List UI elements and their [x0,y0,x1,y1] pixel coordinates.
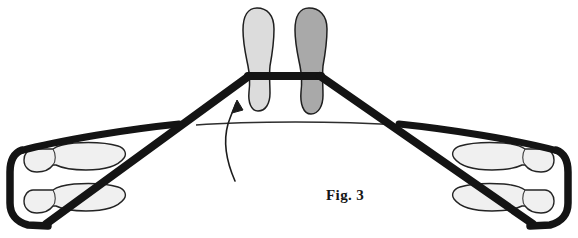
figure-diagram: Fig. 3 [0,0,578,238]
figure-canvas [0,0,578,238]
figure-caption: Fig. 3 [326,187,364,204]
